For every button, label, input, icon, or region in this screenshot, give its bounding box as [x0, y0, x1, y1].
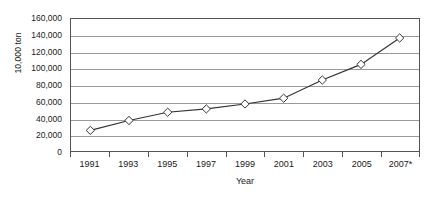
x-axis-tick-mark — [109, 152, 110, 157]
x-axis-tick-label: 2005 — [352, 158, 372, 170]
y-axis-tick-label: 160,000 — [31, 14, 62, 23]
x-axis-tick-label: 2007* — [389, 158, 413, 170]
x-axis-tick-label: 2003 — [313, 158, 333, 170]
data-point-marker — [357, 60, 365, 68]
data-point-marker — [318, 76, 326, 84]
x-axis-tick-mark — [148, 152, 149, 157]
data-point-marker — [125, 116, 133, 124]
y-axis-tick-label: 40,000 — [36, 114, 62, 123]
data-point-marker — [279, 94, 287, 102]
data-point-marker — [395, 34, 403, 42]
x-axis-tick-label: 2001 — [274, 158, 294, 170]
x-axis-tick-label: 1993 — [118, 158, 138, 170]
x-axis-tick-label: 1991 — [79, 158, 99, 170]
x-axis-tick-mark — [187, 152, 188, 157]
x-axis-tick-label: 1997 — [196, 158, 216, 170]
y-axis-tick-label: 60,000 — [36, 97, 62, 106]
y-axis-tick-label: 20,000 — [36, 131, 62, 140]
x-axis-tick-mark — [419, 152, 420, 157]
plot-area — [70, 18, 420, 152]
x-axis-tick-mark — [342, 152, 343, 157]
data-line — [90, 38, 399, 130]
y-axis-tick-label: 100,000 — [31, 64, 62, 73]
line-chart: 10,000 ton 020,00040,00060,00080,000100,… — [0, 0, 441, 208]
y-axis-tick-label: 0 — [57, 148, 62, 157]
y-axis-tick-label: 80,000 — [36, 81, 62, 90]
x-axis-title: Year — [70, 176, 420, 186]
x-axis-tick-mark — [303, 152, 304, 157]
y-axis-tick-label: 140,000 — [31, 30, 62, 39]
y-axis-tick-label: 120,000 — [31, 47, 62, 56]
data-point-marker — [86, 126, 94, 134]
x-axis-tick-marks — [70, 152, 420, 157]
x-axis-tick-label: 1995 — [157, 158, 177, 170]
data-point-marker — [163, 108, 171, 116]
x-axis-tick-mark — [381, 152, 382, 157]
y-axis-tick-labels: 020,00040,00060,00080,000100,000120,0001… — [14, 12, 66, 158]
data-point-marker — [241, 100, 249, 108]
x-axis-tick-mark — [70, 152, 71, 157]
x-axis-tick-labels: 199119931995199719992001200320052007* — [70, 158, 420, 172]
data-series-layer — [71, 19, 419, 151]
data-point-marker — [202, 105, 210, 113]
x-axis-tick-mark — [226, 152, 227, 157]
x-axis-tick-label: 1999 — [235, 158, 255, 170]
x-axis-tick-mark — [264, 152, 265, 157]
